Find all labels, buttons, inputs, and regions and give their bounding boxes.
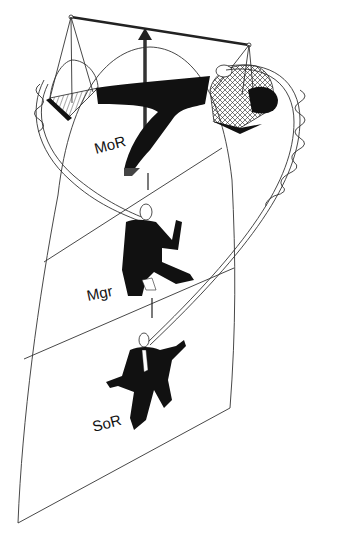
illustration: MoR Mgr SoR (0, 0, 337, 543)
plane-right-edge (230, 180, 235, 408)
label-mgr: Mgr (85, 282, 114, 304)
label-mor: MoR (92, 132, 127, 157)
plane-bottom-edge (18, 408, 230, 523)
diagram-canvas: MoR Mgr SoR (0, 0, 337, 543)
label-sor: SoR (90, 411, 123, 435)
figure-mor (96, 76, 210, 176)
balance-beam (71, 17, 249, 45)
